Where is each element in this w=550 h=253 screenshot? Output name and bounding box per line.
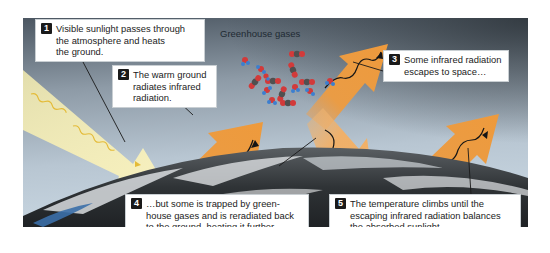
step-3-number: 3 (389, 54, 400, 65)
step-2-line-3: radiation. (133, 92, 210, 104)
step-5-number: 5 (335, 198, 346, 209)
step-4-number: 4 (131, 198, 142, 209)
step-3-line-1: Some infrared radiation (404, 54, 502, 66)
step-5-label: 5 The temperature climbs until the escap… (329, 194, 521, 227)
step-3-label: 3 Some infrared radiation escapes to spa… (383, 50, 509, 82)
step-2-label: 2 The warm ground radiates infrared radi… (112, 65, 217, 108)
greenhouse-effect-diagram: Greenhouse gases 1 Visible sunlight pass… (23, 18, 528, 227)
greenhouse-gases-title: Greenhouse gases (220, 28, 300, 39)
step-1-number: 1 (41, 23, 52, 34)
step-2-number: 2 (118, 69, 129, 80)
step-4-line-2: house gases and is reradiated back (146, 210, 302, 222)
step-5-line-1: The temperature climbs until the (350, 198, 514, 210)
step-4-label: 4 …but some is trapped by green- house g… (125, 194, 309, 227)
step-1-line-1: Visible sunlight passes through (56, 23, 198, 35)
step-3-line-2: escapes to space… (404, 66, 502, 78)
step-4-line-1: …but some is trapped by green- (146, 198, 302, 210)
step-2-line-2: radiates infrared (133, 81, 210, 93)
step-5-line-2: escaping infrared radiation balances (350, 210, 514, 222)
step-4-line-3: to the ground, heating it further. (146, 221, 302, 227)
step-1-label: 1 Visible sunlight passes through the at… (35, 19, 205, 62)
step-5-line-3: the absorbed sunlight. (350, 221, 514, 227)
step-1-line-3: the ground. (56, 46, 198, 58)
step-2-line-1: The warm ground (133, 69, 210, 81)
step-1-line-2: the atmosphere and heats (56, 35, 198, 47)
